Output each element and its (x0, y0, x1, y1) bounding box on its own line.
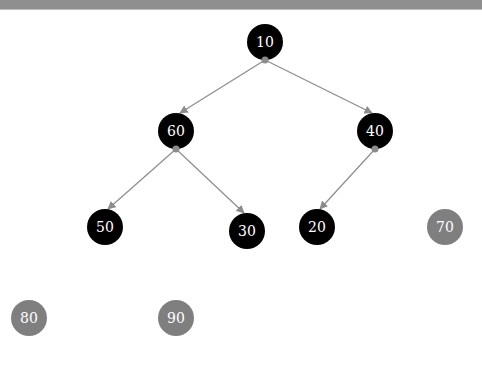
tree-node-20[interactable]: 20 (299, 209, 335, 245)
edge-60-30 (176, 149, 244, 213)
tree-node-50[interactable]: 50 (87, 209, 123, 245)
connector-dot (173, 146, 180, 153)
node-label: 30 (238, 223, 256, 239)
node-label: 90 (167, 310, 185, 326)
node-label: 70 (436, 219, 454, 235)
tree-canvas: 10 60 40 50 30 20 70 80 90 (0, 0, 482, 365)
edge-40-20 (320, 149, 375, 209)
tree-node-10[interactable]: 10 (247, 24, 283, 64)
detached-node-80[interactable]: 80 (11, 300, 47, 336)
edge-60-50 (108, 149, 176, 209)
node-label: 20 (308, 219, 326, 235)
node-label: 50 (96, 219, 114, 235)
edge-10-40 (265, 60, 372, 113)
detached-node-70[interactable]: 70 (427, 209, 463, 245)
edges (108, 60, 375, 213)
node-label: 80 (20, 310, 38, 326)
tree-node-60[interactable]: 60 (158, 113, 194, 153)
node-label: 40 (366, 123, 384, 139)
node-label: 10 (256, 34, 274, 50)
node-label: 60 (167, 123, 185, 139)
tree-node-40[interactable]: 40 (357, 113, 393, 153)
detached-node-90[interactable]: 90 (158, 300, 194, 336)
edge-10-60 (180, 60, 265, 113)
tree-node-30[interactable]: 30 (229, 213, 265, 249)
connector-dot (262, 57, 269, 64)
connector-dot (372, 146, 379, 153)
